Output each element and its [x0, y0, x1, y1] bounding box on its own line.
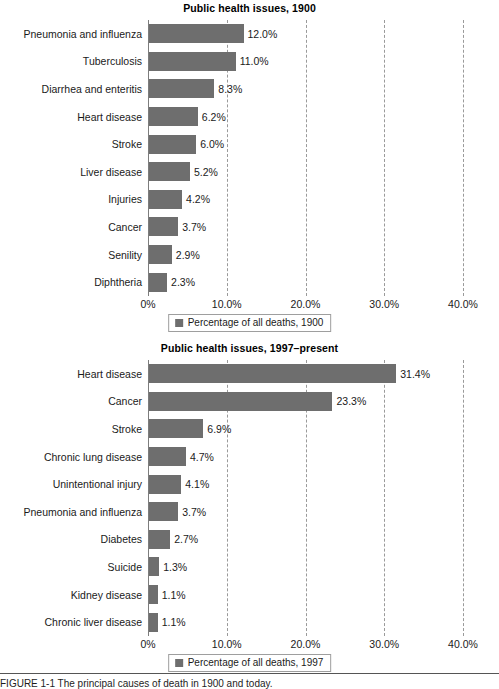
bar	[149, 135, 196, 154]
bar-value-label: 11.0%	[240, 55, 269, 67]
x-tick-label: 20.0%	[291, 638, 321, 650]
category-label: Chronic liver disease	[0, 616, 142, 628]
category-label: Chronic lung disease	[0, 451, 142, 463]
bar-row: Cancer3.7%	[0, 213, 499, 241]
category-label: Kidney disease	[0, 589, 142, 601]
bar-value-label: 5.2%	[194, 166, 218, 178]
bar-row: Stroke6.9%	[0, 415, 499, 443]
category-label: Cancer	[0, 395, 142, 407]
category-label: Heart disease	[0, 111, 142, 123]
plot-area: Pneumonia and influenza12.0%Tuberculosis…	[0, 20, 499, 296]
x-tick-label: 40.0%	[448, 638, 478, 650]
category-label: Stroke	[0, 138, 142, 150]
category-label: Tuberculosis	[0, 55, 142, 67]
bar-value-label: 2.9%	[176, 249, 200, 261]
x-tick-label: 40.0%	[448, 298, 478, 310]
category-label: Pneumonia and influenza	[0, 28, 142, 40]
bar-value-label: 4.1%	[185, 478, 209, 490]
x-tick-label: 20.0%	[291, 298, 321, 310]
bar	[149, 502, 178, 521]
category-label: Diarrhea and enteritis	[0, 83, 142, 95]
footer-divider	[0, 673, 499, 674]
bar-row: Injuries4.2%	[0, 186, 499, 214]
category-label: Unintentional injury	[0, 478, 142, 490]
bar-row: Unintentional injury4.1%	[0, 470, 499, 498]
bar	[149, 585, 158, 604]
category-label: Heart disease	[0, 368, 142, 380]
category-label: Stroke	[0, 423, 142, 435]
category-label: Pneumonia and influenza	[0, 506, 142, 518]
bar-value-label: 23.3%	[336, 395, 366, 407]
bar-value-label: 3.7%	[182, 506, 206, 518]
legend-label: Percentage of all deaths, 1900	[188, 317, 324, 328]
category-label: Suicide	[0, 561, 142, 573]
x-tick-label: 30.0%	[369, 298, 399, 310]
bar	[149, 613, 158, 632]
bar	[149, 162, 190, 181]
bar	[149, 107, 198, 126]
bar-row: Diarrhea and enteritis8.3%	[0, 75, 499, 103]
bar-row: Heart disease6.2%	[0, 103, 499, 131]
bar-value-label: 8.3%	[218, 83, 242, 95]
bar-value-label: 6.9%	[207, 423, 231, 435]
bar-row: Kidney disease1.1%	[0, 581, 499, 609]
bar-row: Cancer23.3%	[0, 388, 499, 416]
bar-value-label: 6.0%	[200, 138, 224, 150]
bar-value-label: 1.1%	[162, 616, 186, 628]
bar-rows: Pneumonia and influenza12.0%Tuberculosis…	[0, 20, 499, 296]
category-label: Liver disease	[0, 166, 142, 178]
bar-value-label: 4.7%	[190, 451, 214, 463]
x-axis-ticks: 0%10.0%20.0%30.0%40.0%	[0, 638, 499, 652]
legend-label: Percentage of all deaths, 1997	[188, 657, 324, 668]
bar	[149, 245, 172, 264]
x-tick-label: 0%	[140, 638, 155, 650]
bar	[149, 557, 159, 576]
bar	[149, 419, 203, 438]
bar-value-label: 1.3%	[163, 561, 187, 573]
bar	[149, 530, 170, 549]
bar-value-label: 12.0%	[248, 28, 278, 40]
bar-value-label: 2.3%	[171, 276, 195, 288]
legend-swatch-icon	[175, 319, 183, 327]
chart-legend: Percentage of all deaths, 1900	[168, 314, 332, 332]
bar-row: Diabetes2.7%	[0, 526, 499, 554]
chart-public-health-1900: Public health issues, 1900 Pneumonia and…	[0, 0, 499, 340]
category-label: Cancer	[0, 221, 142, 233]
bar-value-label: 6.2%	[202, 111, 226, 123]
chart-legend: Percentage of all deaths, 1997	[168, 654, 332, 672]
bar	[149, 24, 244, 43]
legend-swatch-icon	[175, 659, 183, 667]
bar-value-label: 1.1%	[162, 589, 186, 601]
bar-value-label: 3.7%	[182, 221, 206, 233]
bar	[149, 475, 181, 494]
bar	[149, 392, 332, 411]
bar-row: Chronic lung disease4.7%	[0, 443, 499, 471]
category-label: Diphtheria	[0, 276, 142, 288]
x-tick-label: 10.0%	[212, 638, 242, 650]
bar	[149, 79, 214, 98]
category-label: Injuries	[0, 193, 142, 205]
bar-row: Heart disease31.4%	[0, 360, 499, 388]
bar	[149, 447, 186, 466]
x-tick-label: 10.0%	[212, 298, 242, 310]
bar-row: Pneumonia and influenza3.7%	[0, 498, 499, 526]
figure-caption: FIGURE 1-1 The principal causes of death…	[0, 678, 499, 689]
bar-row: Senility2.9%	[0, 241, 499, 269]
bar-value-label: 31.4%	[400, 368, 430, 380]
plot-area: Heart disease31.4%Cancer23.3%Stroke6.9%C…	[0, 360, 499, 636]
chart-title: Public health issues, 1900	[0, 2, 499, 14]
x-axis-ticks: 0%10.0%20.0%30.0%40.0%	[0, 298, 499, 312]
bar-value-label: 4.2%	[186, 193, 210, 205]
chart-public-health-1997: Public health issues, 1997–present Heart…	[0, 340, 499, 680]
bar-row: Stroke6.0%	[0, 130, 499, 158]
category-label: Diabetes	[0, 533, 142, 545]
chart-title: Public health issues, 1997–present	[0, 342, 499, 354]
bar-row: Chronic liver disease1.1%	[0, 608, 499, 636]
bar	[149, 364, 396, 383]
bar-row: Tuberculosis11.0%	[0, 48, 499, 76]
bar-row: Suicide1.3%	[0, 553, 499, 581]
bar-row: Pneumonia and influenza12.0%	[0, 20, 499, 48]
category-label: Senility	[0, 249, 142, 261]
bar	[149, 273, 167, 292]
